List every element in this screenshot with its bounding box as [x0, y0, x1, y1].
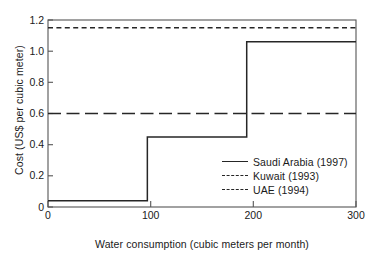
x-tick-label: 0 [28, 210, 68, 221]
legend-line-solid-icon [222, 157, 248, 167]
legend-item-uae: UAE (1994) [222, 183, 354, 197]
legend-item-label: Saudi Arabia (1997) [253, 156, 348, 168]
legend-item-label: UAE (1994) [253, 184, 309, 196]
legend-item-kuwait: Kuwait (1993) [222, 169, 354, 183]
legend-item-label: Kuwait (1993) [253, 170, 319, 182]
y-axis-title: Cost (US$ per cubic meter) [13, 20, 25, 200]
x-tick-label: 300 [336, 210, 370, 221]
legend-item-saudi-arabia: Saudi Arabia (1997) [222, 155, 354, 169]
x-tick-label: 100 [131, 210, 171, 221]
chart-figure: 0 0.2 0.4 0.6 0.8 1.0 1.2 0 100 200 300 … [0, 0, 370, 257]
x-axis-ticks [48, 201, 356, 207]
legend-line-dashed-icon [222, 171, 248, 181]
chart-legend: Saudi Arabia (1997) Kuwait (1993) UAE (1… [222, 155, 354, 197]
x-axis-title: Water consumption (cubic meters per mont… [48, 238, 356, 250]
legend-line-dotted-icon [222, 185, 248, 195]
x-tick-label: 200 [233, 210, 273, 221]
